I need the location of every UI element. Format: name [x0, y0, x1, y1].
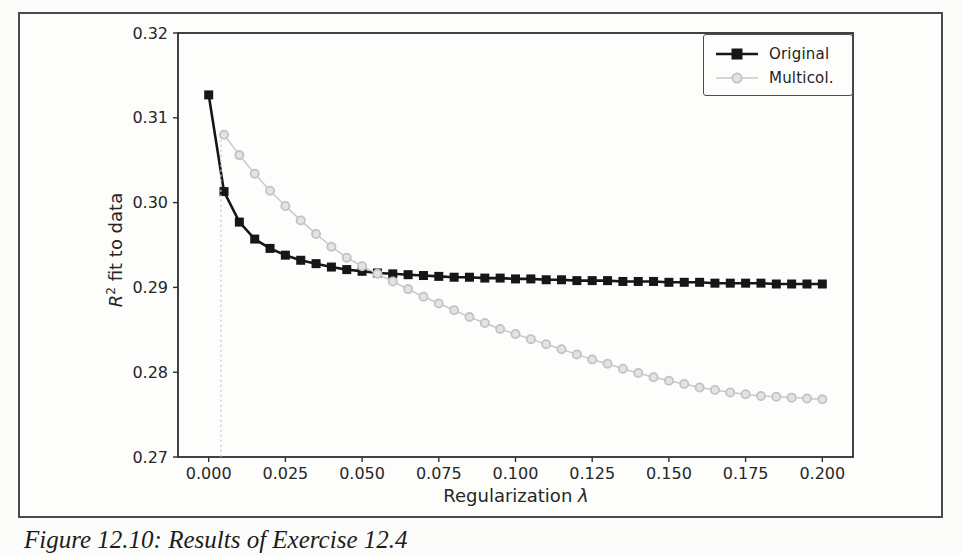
legend-entry-original: Original: [714, 42, 852, 66]
legend-label-original: Original: [769, 45, 829, 63]
series-original: [204, 90, 827, 288]
svg-text:0.30: 0.30: [132, 193, 168, 212]
svg-text:0.28: 0.28: [132, 363, 168, 382]
figure-caption: Figure 12.10: Results of Exercise 12.4: [24, 526, 407, 554]
x-axis-label-text: Regularization: [443, 485, 572, 506]
y-axis-label: R2 fit to data: [104, 150, 126, 350]
svg-text:0.27: 0.27: [132, 448, 168, 467]
y-axis-label-rest: fit to data: [105, 193, 126, 287]
svg-text:0.32: 0.32: [132, 24, 168, 43]
svg-text:0.150: 0.150: [646, 464, 692, 483]
svg-text:0.000: 0.000: [186, 464, 232, 483]
svg-text:0.175: 0.175: [723, 464, 769, 483]
y-axis-label-var: R: [105, 295, 126, 308]
y-axis-ticks: 0.270.280.290.300.310.32: [132, 24, 178, 467]
x-axis-label: Regularization λ: [365, 485, 667, 506]
y-axis-label-sup: 2: [104, 287, 118, 295]
legend-label-multicol: Multicol.: [769, 69, 834, 87]
legend-entry-multicol: Multicol.: [714, 66, 852, 90]
chart-legend: Original Multicol.: [703, 34, 853, 96]
svg-text:0.125: 0.125: [569, 464, 615, 483]
axes-spines: [178, 33, 853, 457]
lambda-symbol: λ: [578, 485, 589, 506]
svg-text:0.29: 0.29: [132, 278, 168, 297]
x-axis-ticks: 0.0000.0250.0500.0750.1000.1250.1500.175…: [186, 457, 845, 483]
svg-text:0.075: 0.075: [416, 464, 462, 483]
svg-text:0.050: 0.050: [339, 464, 385, 483]
series-multicol: [220, 131, 826, 457]
svg-text:0.200: 0.200: [799, 464, 845, 483]
svg-text:0.025: 0.025: [262, 464, 308, 483]
svg-text:0.100: 0.100: [493, 464, 539, 483]
multicol-series-sample-icon: [714, 71, 760, 85]
svg-text:0.31: 0.31: [132, 108, 168, 127]
original-series-sample-icon: [714, 47, 760, 61]
